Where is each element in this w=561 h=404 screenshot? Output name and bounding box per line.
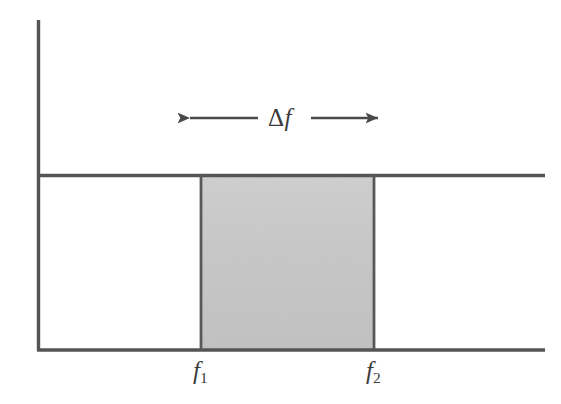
bandwidth-delta-f-label: Δf — [268, 105, 292, 130]
tick-label-f2-subscript: 2 — [373, 369, 381, 386]
tick-label-f1: f1 — [193, 358, 208, 386]
figure-container: Δf f1 f2 — [0, 0, 561, 404]
frequency-symbol: f — [285, 104, 292, 131]
passband-shaded-region — [201, 176, 374, 350]
tick-label-f2-symbol: f — [366, 357, 373, 384]
bandwidth-diagram-svg — [0, 0, 561, 404]
tick-label-f1-subscript: 1 — [200, 369, 208, 386]
tick-label-f2: f2 — [366, 358, 381, 386]
delta-symbol: Δ — [268, 104, 285, 131]
tick-label-f1-symbol: f — [193, 357, 200, 384]
